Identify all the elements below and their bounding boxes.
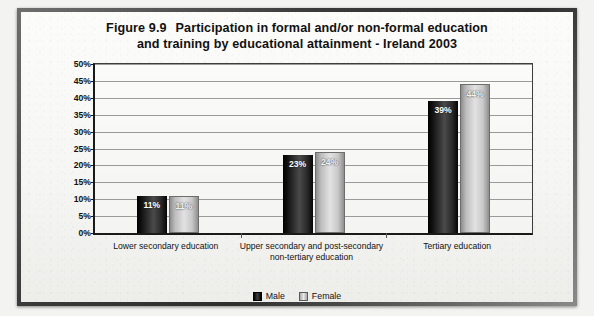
y-axis-tick-mark [91,149,95,150]
y-axis-tick-label: 10% [74,194,91,204]
bar-male: 23% [283,155,313,233]
y-axis-tick-label: 45% [74,76,91,86]
y-axis-tick-label: 35% [74,110,91,120]
plot-area: 0%5%10%15%20%25%30%35%40%45%50%11%11%23%… [93,63,533,235]
legend-item-male: Male [253,291,285,301]
chart-legend: Male Female [21,291,573,301]
gridline [95,64,532,65]
legend-label-female: Female [312,291,341,301]
y-axis-tick-label: 15% [74,177,91,187]
category-separator-tick [386,233,387,238]
y-axis-tick-label: 25% [74,144,91,154]
y-axis-tick-mark [91,132,95,133]
legend-label-male: Male [266,291,285,301]
bar-value-label: 24% [316,157,344,167]
figure-frame: Figure 9.9Participation in formal and/or… [17,8,577,306]
y-axis-tick-mark [91,115,95,116]
figure-title-text: Participation in formal and/or non-forma… [176,21,488,35]
legend-swatch-male-icon [253,292,262,301]
y-axis-tick-mark [91,199,95,200]
bar-chart: 0%5%10%15%20%25%30%35%40%45%50%11%11%23%… [76,63,521,238]
bar-value-label: 44% [461,89,489,99]
bar-male: 39% [428,101,458,233]
bar-value-label: 39% [428,105,458,115]
y-axis-tick-mark [91,216,95,217]
bar-value-label: 11% [137,200,167,210]
bar-female: 24% [315,152,345,233]
bar-female: 11% [169,196,199,233]
y-axis-tick-label: 5% [79,211,91,221]
y-axis-tick-mark [91,233,95,234]
y-axis-tick-label: 50% [74,59,91,69]
legend-item-female: Female [299,291,341,301]
y-axis-tick-label: 30% [74,127,91,137]
y-axis-tick-label: 20% [74,160,91,170]
legend-swatch-female-icon [299,292,308,301]
figure-title: Figure 9.9Participation in formal and/or… [21,20,573,52]
bar-male: 11% [137,196,167,233]
y-axis-tick-mark [91,182,95,183]
bar-value-label: 11% [170,201,198,211]
gridline [95,81,532,82]
y-axis-tick-mark [91,98,95,99]
bar-female: 44% [460,84,490,233]
y-axis-tick-mark [91,81,95,82]
figure-title-line-2: and training by educational attainment -… [21,36,573,52]
x-axis-category-label: Upper secondary and post-secondary non-t… [232,241,392,263]
figure-number: Figure 9.9 [106,21,167,35]
figure-inner-panel: Figure 9.9Participation in formal and/or… [21,12,573,302]
figure-title-line-1: Figure 9.9Participation in formal and/or… [21,20,573,36]
y-axis-tick-label: 0% [79,228,91,238]
y-axis-tick-label: 40% [74,93,91,103]
bar-value-label: 23% [283,159,313,169]
x-axis-category-label: Lower secondary education [86,241,246,252]
y-axis-tick-mark [91,165,95,166]
y-axis-tick-mark [91,64,95,65]
scanned-page: Figure 9.9Participation in formal and/or… [0,0,594,316]
category-separator-tick [241,233,242,238]
x-axis-category-label: Tertiary education [377,241,537,252]
